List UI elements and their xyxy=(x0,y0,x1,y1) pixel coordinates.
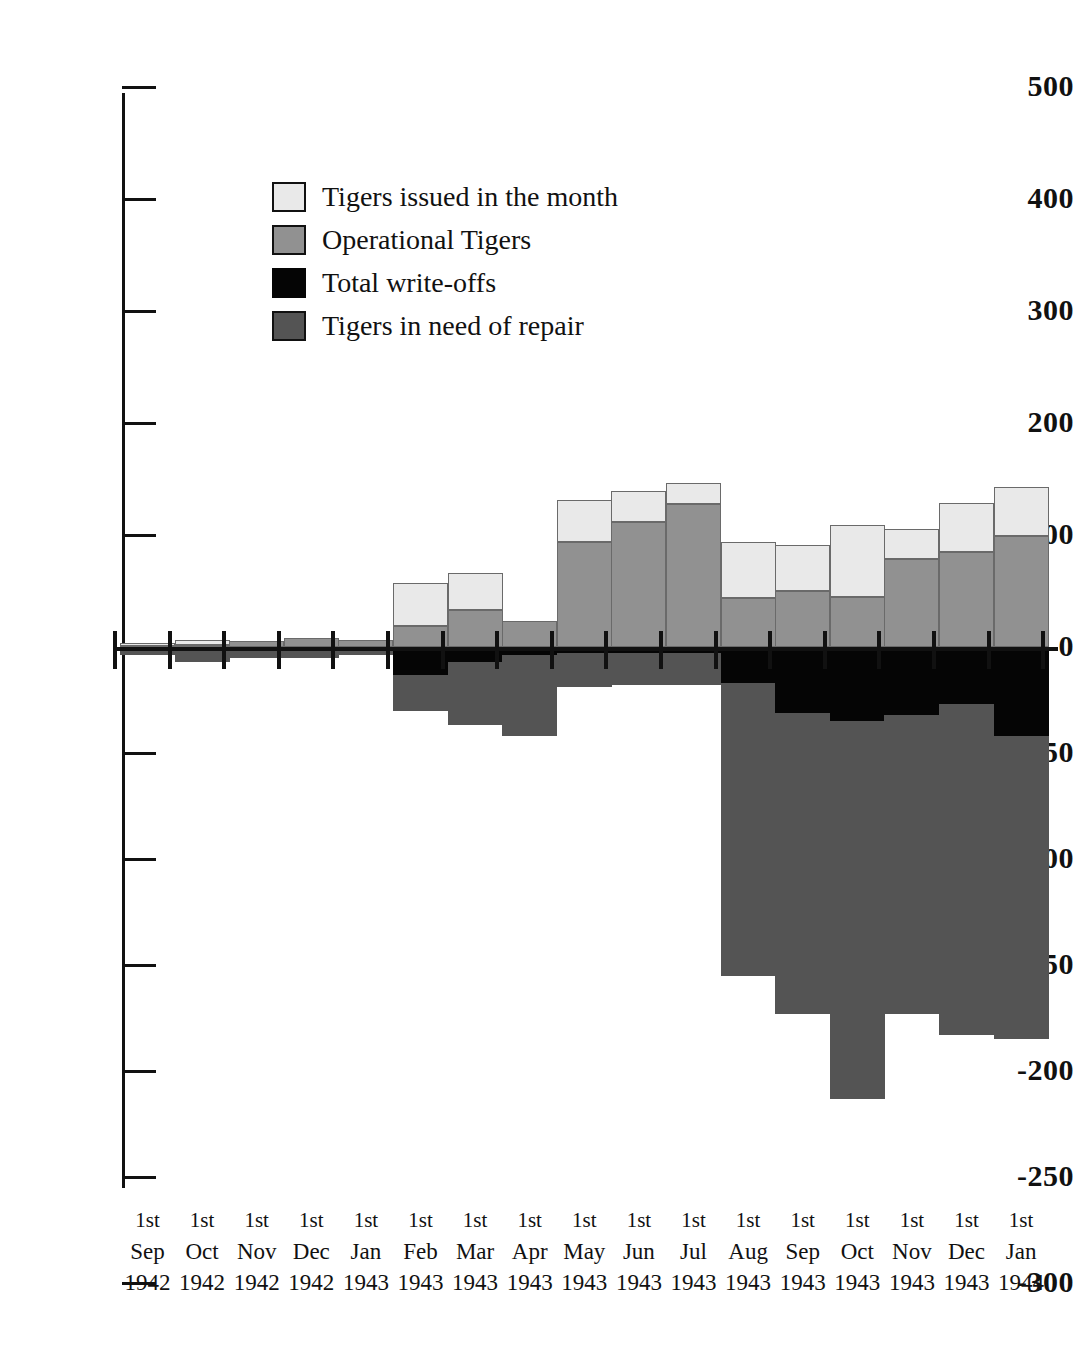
legend-item[interactable]: Tigers in need of repair xyxy=(272,305,618,346)
y-axis-tick xyxy=(122,86,156,89)
chart-legend: Tigers issued in the monthOperational Ti… xyxy=(272,176,618,348)
x-axis-label-month: Jan xyxy=(988,1236,1055,1267)
x-axis-tick xyxy=(550,631,554,669)
bar-segment-issued xyxy=(721,542,776,598)
x-axis-tick xyxy=(823,631,827,669)
x-axis-tick xyxy=(659,631,663,669)
x-axis-tick xyxy=(277,631,281,669)
bar-segment-issued xyxy=(994,487,1049,536)
legend-item[interactable]: Operational Tigers xyxy=(272,219,618,260)
x-axis-tick xyxy=(331,631,335,669)
legend-item[interactable]: Total write-offs xyxy=(272,262,618,303)
bar-segment-repair xyxy=(939,704,994,1035)
bar-segment-issued xyxy=(775,545,830,591)
legend-item-label: Tigers issued in the month xyxy=(322,183,618,211)
bar-segment-issued xyxy=(448,573,503,610)
chart-root: 5004003002001000-50-100-150-200-250-300 … xyxy=(0,0,1074,1361)
x-axis-label: 1stJan1944 xyxy=(988,1205,1055,1298)
x-axis-labels: 1stSep19421stOct19421stNov19421stDec1942… xyxy=(118,1205,1058,1315)
legend-swatch-issued xyxy=(272,182,306,212)
bar-segment-repair xyxy=(775,713,830,1014)
bar-segment-issued xyxy=(557,500,612,541)
x-axis-tick xyxy=(768,631,772,669)
legend-item[interactable]: Tigers issued in the month xyxy=(272,176,618,217)
x-axis-tick xyxy=(222,631,226,669)
bar-segment-repair xyxy=(994,736,1049,1039)
bar-segment-operational xyxy=(611,522,666,647)
x-axis-tick xyxy=(877,631,881,669)
x-axis-tick xyxy=(604,631,608,669)
legend-item-label: Total write-offs xyxy=(322,269,496,297)
bar-segment-repair xyxy=(884,715,939,1014)
zero-baseline xyxy=(114,647,1058,651)
bar-segment-issued xyxy=(939,503,994,552)
legend-item-label: Tigers in need of repair xyxy=(322,312,584,340)
x-axis-tick xyxy=(168,631,172,669)
x-axis-tick xyxy=(441,631,445,669)
x-axis-tick xyxy=(987,631,991,669)
bar-segment-issued xyxy=(830,525,885,597)
bar-segment-issued xyxy=(611,491,666,521)
bar-segment-repair xyxy=(448,662,503,726)
bar-segment-issued xyxy=(884,529,939,558)
legend-swatch-writeoff xyxy=(272,268,306,298)
bar-segment-operational xyxy=(666,504,721,647)
x-axis-tick xyxy=(386,631,390,669)
bar-segment-repair xyxy=(721,683,776,976)
x-axis-tick xyxy=(495,631,499,669)
legend-swatch-repair xyxy=(272,311,306,341)
x-axis-label-year: 1944 xyxy=(988,1267,1055,1298)
x-axis-label-day: 1st xyxy=(988,1205,1055,1236)
bar-segment-repair xyxy=(830,721,885,1098)
x-axis-tick xyxy=(1041,631,1045,669)
bar-segment-issued xyxy=(393,583,448,626)
legend-swatch-operational xyxy=(272,225,306,255)
legend-item-label: Operational Tigers xyxy=(322,226,531,254)
bar-segment-repair xyxy=(393,675,448,711)
x-axis-tick xyxy=(113,631,117,669)
x-axis-tick xyxy=(932,631,936,669)
x-axis-tick xyxy=(714,631,718,669)
bar-segment-issued xyxy=(666,483,721,503)
